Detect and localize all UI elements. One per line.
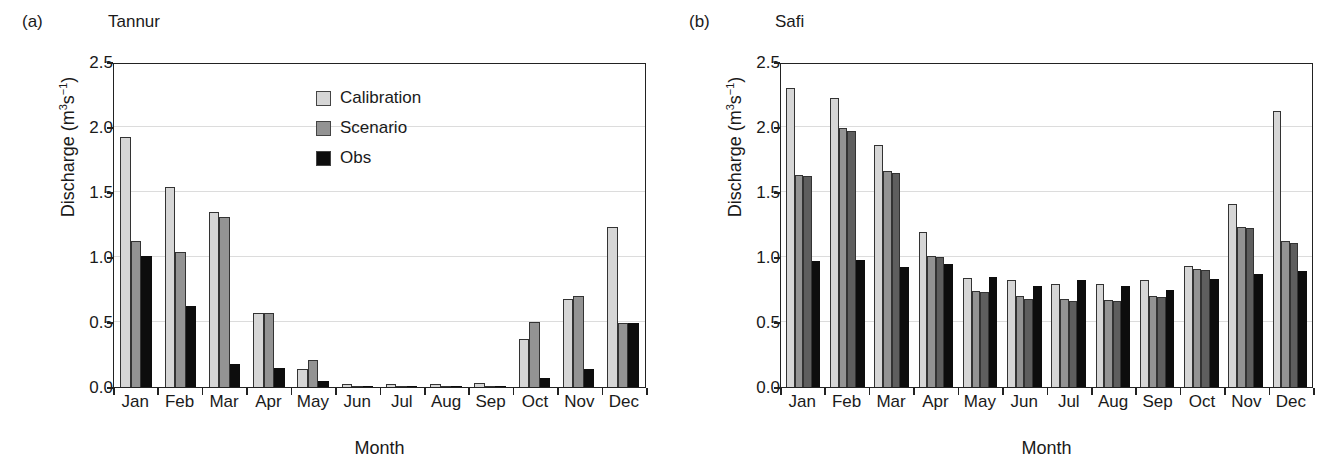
bar-group-mar xyxy=(870,64,914,387)
bar-feb-scenario xyxy=(839,128,848,387)
bar-mar-obs xyxy=(230,364,241,387)
bar-mar-scenario-p xyxy=(892,173,901,388)
bar-apr-obs xyxy=(944,264,953,388)
bar-oct-calibration xyxy=(1184,266,1193,387)
bar-nov-calibration xyxy=(563,299,574,387)
x-tick-label-jan: Jan xyxy=(780,392,824,416)
x-tick-label-may: May xyxy=(958,392,1002,416)
bar-group-aug xyxy=(1091,64,1135,387)
bar-group-sep xyxy=(468,64,512,387)
bar-sep-obs xyxy=(495,386,506,387)
bar-sep-calibration xyxy=(474,383,485,387)
legend-item-calibration: Calibration xyxy=(316,86,421,110)
bar-jul-calibration xyxy=(386,384,397,387)
bar-group-feb xyxy=(825,64,869,387)
bar-aug-scenario-p xyxy=(1113,301,1122,387)
bar-group-aug xyxy=(424,64,468,387)
bar-sep-scenario-p xyxy=(1157,297,1166,387)
bar-jul-scenario xyxy=(396,386,407,387)
bar-aug-calibration xyxy=(1096,284,1105,387)
bar-may-scenario xyxy=(308,360,319,387)
bar-may-scenario-p xyxy=(980,292,989,387)
x-tick-label-apr: Apr xyxy=(246,392,290,416)
bar-group-jun xyxy=(1002,64,1046,387)
bar-jul-scenario xyxy=(1060,299,1069,387)
bar-group-jan xyxy=(114,64,158,387)
bar-jul-obs xyxy=(1077,280,1086,387)
bar-apr-scenario xyxy=(927,256,936,387)
bar-feb-scenario xyxy=(175,252,186,387)
panel-b-bar-groups xyxy=(781,64,1312,387)
bar-apr-scenario-p xyxy=(936,257,945,387)
bar-nov-scenario-p xyxy=(1246,228,1255,387)
bar-jun-scenario xyxy=(352,386,363,387)
x-tick-label-oct: Oct xyxy=(1180,392,1224,416)
bar-jul-calibration xyxy=(1051,284,1060,387)
panel-a-legend: CalibrationScenarioObs xyxy=(316,86,421,170)
x-tick-label-dec: Dec xyxy=(1269,392,1313,416)
bar-group-may xyxy=(958,64,1002,387)
bar-dec-calibration xyxy=(607,227,618,387)
bar-apr-calibration xyxy=(919,232,928,387)
bar-apr-calibration xyxy=(253,313,264,387)
bar-dec-scenario xyxy=(1281,241,1290,387)
bar-aug-calibration xyxy=(430,384,441,387)
bar-group-jul xyxy=(1047,64,1091,387)
x-tick-label-sep: Sep xyxy=(468,392,512,416)
bar-apr-obs xyxy=(274,368,285,388)
bar-jan-obs xyxy=(812,261,821,387)
legend-label-obs: Obs xyxy=(340,148,371,168)
panel-b: (b) Safi Discharge (m3s−1) 0.00.51.01.52… xyxy=(667,0,1334,473)
panel-b-x-axis-label: Month xyxy=(780,438,1313,459)
bar-group-jan xyxy=(781,64,825,387)
bar-group-nov xyxy=(1224,64,1268,387)
bar-may-obs xyxy=(318,381,329,388)
bar-dec-obs xyxy=(628,323,639,387)
bar-mar-scenario xyxy=(883,171,892,387)
panel-a-label: (a) xyxy=(22,12,43,32)
legend-label-scenario: Scenario xyxy=(340,118,407,138)
bar-jun-calibration xyxy=(1007,280,1016,387)
bar-aug-obs xyxy=(451,386,462,387)
bar-jun-obs xyxy=(1033,286,1042,387)
bar-oct-scenario xyxy=(1193,269,1202,387)
x-tick-label-sep: Sep xyxy=(1135,392,1179,416)
bar-group-nov xyxy=(557,64,601,387)
bar-may-scenario xyxy=(972,291,981,387)
bar-feb-obs xyxy=(186,306,197,387)
x-tick-label-nov: Nov xyxy=(1224,392,1268,416)
bar-jun-obs xyxy=(363,386,374,387)
bar-nov-obs xyxy=(1254,274,1263,387)
bar-sep-obs xyxy=(1166,290,1175,388)
x-tick-label-mar: Mar xyxy=(202,392,246,416)
bar-dec-obs xyxy=(1298,271,1307,387)
bar-group-sep xyxy=(1135,64,1179,387)
bar-feb-obs xyxy=(856,260,865,387)
bar-jan-scenario xyxy=(131,241,142,387)
bar-group-dec xyxy=(601,64,645,387)
bar-may-obs xyxy=(989,277,998,388)
x-tick-label-nov: Nov xyxy=(557,392,601,416)
bar-sep-calibration xyxy=(1140,280,1149,387)
bar-group-apr xyxy=(914,64,958,387)
bar-feb-calibration xyxy=(165,187,176,387)
bar-group-mar xyxy=(203,64,247,387)
bar-group-dec xyxy=(1268,64,1312,387)
x-tick-label-may: May xyxy=(291,392,335,416)
x-tick-label-apr: Apr xyxy=(913,392,957,416)
panel-a: (a) Tannur Discharge (m3s−1) 0.00.51.01.… xyxy=(0,0,667,473)
bar-jun-scenario-p xyxy=(1024,299,1033,387)
bar-sep-scenario xyxy=(1149,296,1158,387)
bar-aug-scenario xyxy=(441,386,452,387)
bar-group-oct xyxy=(512,64,556,387)
legend-swatch-scenario-icon xyxy=(316,121,331,136)
bar-jan-obs xyxy=(141,256,152,387)
bar-jan-scenario-p xyxy=(803,176,812,387)
x-tick-label-jul: Jul xyxy=(1047,392,1091,416)
bar-mar-obs xyxy=(900,267,909,387)
panel-b-label: (b) xyxy=(689,12,710,32)
bar-sep-scenario xyxy=(485,386,496,387)
bar-nov-calibration xyxy=(1228,204,1237,387)
panel-b-x-tick-labels: JanFebMarAprMayJunJulAugSepOctNovDec xyxy=(780,392,1313,416)
bar-group-oct xyxy=(1179,64,1223,387)
